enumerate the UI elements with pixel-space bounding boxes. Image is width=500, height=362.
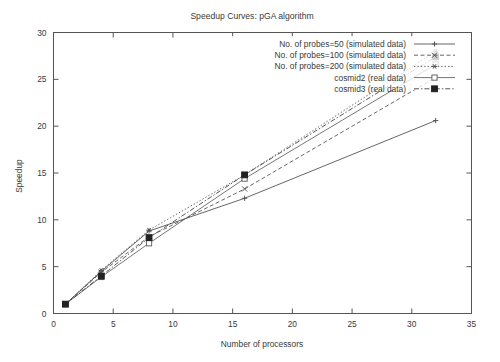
x-tick-label: 0	[51, 319, 56, 329]
data-point-marker	[146, 241, 151, 246]
data-point-marker	[63, 301, 69, 307]
data-point-marker	[242, 172, 248, 178]
y-tick-label: 30	[37, 28, 47, 38]
y-tick-label: 15	[37, 168, 47, 178]
x-tick-label: 15	[228, 319, 238, 329]
legend-item-label-4: cosmid2 (real data)	[334, 73, 406, 83]
series-line	[65, 121, 435, 305]
data-point-marker	[432, 75, 437, 80]
legend-item-label-1: No. of probes=50 (simulated data)	[279, 39, 406, 49]
axis-titles-group: Number of processors Speedup	[14, 159, 303, 349]
x-tick-label: 10	[168, 319, 178, 329]
data-point-marker	[242, 196, 247, 201]
data-point-marker	[433, 118, 438, 123]
legend-item-label-2: No. of probes=100 (simulated data)	[274, 50, 406, 60]
legend-item-label-3: No. of probes=200 (simulated data)	[274, 61, 406, 71]
x-tick-label: 25	[347, 319, 357, 329]
y-tick-label: 25	[37, 74, 47, 84]
data-point-marker	[432, 86, 438, 92]
speedup-chart: Speedup Curves: pGA algorithm 0510152025…	[0, 0, 500, 362]
data-point-marker	[242, 186, 247, 191]
y-tick-label: 0	[42, 309, 47, 319]
x-axis-label: Number of processors	[221, 339, 303, 349]
series-4	[63, 62, 438, 307]
legend-item-label-5: cosmid3 (real data)	[334, 84, 406, 94]
x-tick-label: 30	[407, 319, 417, 329]
data-point-marker	[98, 273, 104, 279]
series-2	[63, 75, 438, 307]
series-line	[65, 57, 435, 304]
series-line	[65, 64, 435, 304]
x-tick-label: 35	[467, 319, 477, 329]
chart-title: Speedup Curves: pGA algorithm	[190, 11, 313, 21]
y-tick-label: 10	[37, 215, 47, 225]
y-tick-label: 5	[42, 262, 47, 272]
chart-canvas: Speedup Curves: pGA algorithm 0510152025…	[0, 0, 500, 362]
y-axis-label: Speedup	[14, 159, 24, 193]
chart-title-group: Speedup Curves: pGA algorithm	[190, 11, 313, 21]
series-1	[63, 118, 438, 307]
x-tick-label: 20	[288, 319, 298, 329]
series-line	[65, 77, 435, 304]
data-point-marker	[146, 235, 152, 241]
x-tick-label: 5	[111, 319, 116, 329]
chart-legend: No. of probes=50 (simulated data)No. of …	[212, 34, 471, 94]
y-tick-label: 20	[37, 121, 47, 131]
